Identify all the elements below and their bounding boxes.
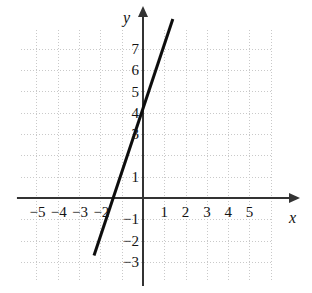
y-tick-label: 5 (132, 84, 140, 99)
x-tick-label: −2 (93, 205, 109, 220)
y-axis-arrowhead (138, 6, 148, 17)
y-tick-label: 6 (132, 63, 140, 78)
x-tick-label: 5 (246, 205, 254, 220)
y-tick-label: 7 (132, 41, 140, 56)
graph-figure: −5−4−3−212345 765431−1−2−3 x y (0, 0, 312, 293)
x-axis-arrowhead (289, 193, 300, 203)
y-tick-label: −2 (123, 233, 139, 248)
axis-group (17, 6, 300, 286)
y-tick-label: 4 (132, 105, 140, 120)
y-tick-label: −3 (123, 254, 139, 269)
x-tick-label: −5 (30, 205, 46, 220)
y-tick-label: 3 (132, 127, 140, 142)
x-tick-label: 3 (203, 205, 211, 220)
y-axis-label: y (123, 10, 130, 26)
x-tick-label: 4 (224, 205, 232, 220)
y-tick-label: 1 (132, 169, 140, 184)
x-tick-label: 2 (182, 205, 190, 220)
x-tick-label: −3 (72, 205, 88, 220)
x-axis-label: x (289, 210, 296, 226)
y-tick-label: −1 (123, 212, 139, 227)
plot-area (0, 0, 312, 293)
x-tick-label: −4 (51, 205, 67, 220)
x-tick-label: 1 (161, 205, 169, 220)
